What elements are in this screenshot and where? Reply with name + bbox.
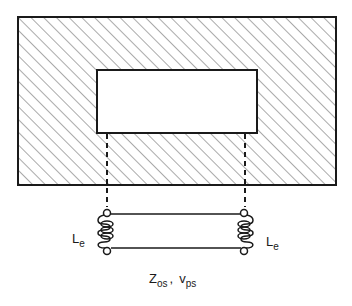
aperture-slot xyxy=(97,70,257,133)
line-parameters-label: Zos,vps xyxy=(149,272,196,289)
impedance-symbol: Z xyxy=(149,271,157,286)
impedance-subscript: os xyxy=(157,278,168,289)
velocity-subscript: ps xyxy=(186,278,197,289)
diagram-canvas xyxy=(0,0,352,306)
left-inductor-coil-icon xyxy=(98,210,113,255)
param-separator: , xyxy=(170,271,174,286)
right-inductance-subscript: e xyxy=(273,241,279,252)
left-inductance-subscript: e xyxy=(79,238,85,249)
right-inductance-label: Le xyxy=(266,235,279,252)
left-inductance-label: Le xyxy=(72,232,85,249)
